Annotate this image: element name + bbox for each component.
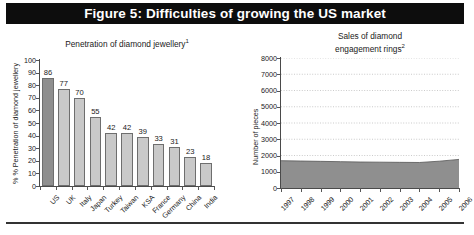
bar-chart-x-tick-mark [40, 186, 41, 190]
area-chart-y-tick-label: 8000 [254, 54, 277, 63]
bar-chart-x-axis-line [39, 186, 215, 187]
bar-chart-y-tick-label: 90 [14, 68, 36, 77]
bar-chart-x-tick-mark [182, 186, 183, 190]
area-chart-title-superscript: 2 [402, 43, 405, 49]
area-chart-x-tick-mark [400, 188, 401, 192]
bar-chart-y-tick-label: 30 [14, 144, 36, 153]
area-chart-x-tick-mark [419, 188, 420, 192]
bar-taiwan[interactable] [121, 133, 133, 186]
bar-chart-title-text: Penetration of diamond jewellery [65, 39, 185, 49]
area-chart-x-tick-mark [380, 188, 381, 192]
bar-chart-x-tick-mark [87, 186, 88, 190]
bar-us[interactable] [42, 78, 54, 186]
bar-chart-y-tick-label: 80 [14, 81, 36, 90]
figure-title-bar: Figure 5: Difficulties of growing the US… [6, 3, 464, 24]
bar-chart-x-tick-mark [119, 186, 120, 190]
bar-value-label: 55 [81, 107, 109, 116]
bar-turkey[interactable] [105, 133, 117, 186]
area-chart-x-tick-mark [321, 188, 322, 192]
bar-chart-title-superscript: 1 [186, 38, 189, 44]
bar-chart-x-tick-mark [167, 186, 168, 190]
bar-chart-x-tick-mark [72, 186, 73, 190]
bar-value-label: 77 [50, 79, 78, 88]
area-chart-title: Sales of diamond engagement rings2 [281, 31, 459, 54]
bar-value-label: 86 [34, 68, 62, 77]
area-chart-gridlines [281, 58, 459, 172]
bar-value-label: 31 [160, 137, 188, 146]
bar-chart-y-tick-label: 20 [14, 156, 36, 165]
bar-value-label: 70 [66, 88, 94, 97]
bar-chart-x-tick-mark [198, 186, 199, 190]
area-chart-y-tick-label: 0 [254, 184, 277, 193]
area-chart-y-tick-label: 6000 [254, 86, 277, 95]
figure-title: Figure 5: Difficulties of growing the US… [84, 6, 386, 21]
area-chart-y-tick-label: 1000 [254, 167, 277, 176]
bar-chart-y-tick-label: 40 [14, 131, 36, 140]
area-chart-title-line2: engagement rings [335, 44, 401, 54]
area-chart-x-tick-mark [439, 188, 440, 192]
area-chart-x-tick-mark [360, 188, 361, 192]
area-chart-title-line1: Sales of diamond [338, 31, 402, 41]
bar-chart-x-tick-mark [56, 186, 57, 190]
area-chart-y-tick-label: 5000 [254, 102, 277, 111]
footer-divider [6, 222, 464, 224]
bar-chart-x-tick-mark [151, 186, 152, 190]
bar-chart-y-tick-label: 10 [14, 169, 36, 178]
area-chart-series-path [281, 159, 459, 188]
bar-chart-y-tick-label: 60 [14, 106, 36, 115]
bar-india[interactable] [200, 163, 212, 186]
area-chart-x-tick-mark [459, 188, 460, 192]
bar-chart-x-tick-mark [135, 186, 136, 190]
area-chart-y-tick-label: 7000 [254, 70, 277, 79]
bar-ksa[interactable] [137, 137, 149, 186]
area-chart-svg [281, 58, 459, 188]
area-chart-y-tick-label: 2000 [254, 151, 277, 160]
bar-chart-title: Penetration of diamond jewellery1 [40, 36, 214, 49]
bar-uk[interactable] [58, 89, 70, 186]
area-chart-x-axis-line [280, 188, 460, 189]
area-chart-y-tick-label: 3000 [254, 135, 277, 144]
bar-value-label: 18 [192, 153, 220, 162]
bar-france[interactable] [153, 144, 165, 186]
bar-chart-y-tick-label: 70 [14, 93, 36, 102]
bar-chart-y-tick-label: 50 [14, 119, 36, 128]
bar-chart-y-tick-label: 100 [14, 56, 36, 65]
bar-chart-x-tick-mark [214, 186, 215, 190]
area-chart-x-tick-mark [281, 188, 282, 192]
bar-chart-x-tick-mark [103, 186, 104, 190]
area-chart-x-tick-mark [340, 188, 341, 192]
bar-chart-y-tick-label: 0 [14, 182, 36, 191]
area-chart-plot-area [281, 58, 459, 188]
area-chart-x-tick-mark [301, 188, 302, 192]
area-chart-y-tick-label: 4000 [254, 119, 277, 128]
